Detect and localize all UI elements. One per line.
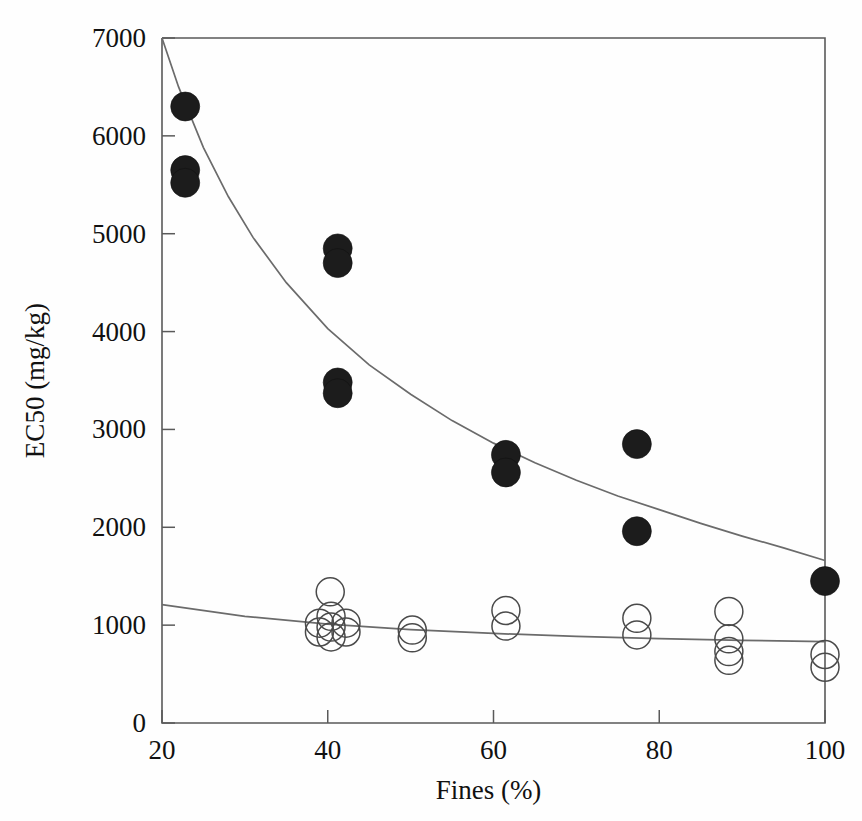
data-point-open [623,604,651,632]
x-tick-label-40: 40 [314,735,341,765]
x-tick-label-60: 60 [480,735,507,765]
data-point-open [492,596,520,624]
data-point-open [332,618,360,646]
data-point-filled [491,458,520,487]
upper-fit-curve [162,38,825,561]
data-point-filled [622,430,651,459]
scatter-plot: 0100020003000400050006000700020406080100… [0,0,862,821]
y-tick-label-6000: 6000 [92,121,146,151]
figure-container: 0100020003000400050006000700020406080100… [0,0,862,821]
x-axis-title: Fines (%) [436,775,542,805]
data-point-filled [171,92,200,121]
axis-labels-group: 0100020003000400050006000700020406080100… [20,23,845,805]
y-tick-label-7000: 7000 [92,23,146,53]
x-tick-label-20: 20 [149,735,176,765]
y-tick-label-1000: 1000 [92,610,146,640]
y-tick-label-4000: 4000 [92,317,146,347]
data-point-filled [622,517,651,546]
fit-curves-group [162,38,825,642]
y-tick-label-5000: 5000 [92,219,146,249]
data-points-group [171,92,840,681]
data-point-open [305,618,333,646]
data-point-filled [811,567,840,596]
data-point-open [715,646,743,674]
data-point-open [623,621,651,649]
data-point-open [715,597,743,625]
data-point-filled [323,379,352,408]
data-point-open [715,625,743,653]
lower-fit-curve [162,605,825,642]
y-tick-label-2000: 2000 [92,512,146,542]
y-tick-label-0: 0 [133,708,147,738]
x-tick-label-100: 100 [805,735,846,765]
data-point-filled [323,249,352,278]
data-point-filled [171,168,200,197]
y-tick-label-3000: 3000 [92,414,146,444]
data-point-open [492,612,520,640]
x-tick-label-80: 80 [646,735,673,765]
data-point-open [715,638,743,666]
data-point-open [398,624,426,652]
y-axis-title: EC50 (mg/kg) [20,303,50,458]
